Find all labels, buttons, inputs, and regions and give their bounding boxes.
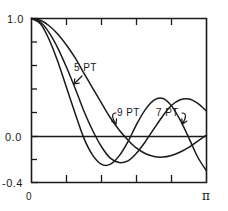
data-curves bbox=[32, 19, 207, 171]
y-axis-max-label: 1.0 bbox=[7, 14, 24, 25]
x-axis-max-label: π bbox=[202, 190, 210, 202]
x-axis-zero-label: 0 bbox=[26, 192, 32, 202]
curve-label-7pt: 7 PT bbox=[156, 108, 179, 118]
chart-figure: 1.0 0.0 -0.4 0 π 5 PT 9 PT 7 PT bbox=[0, 0, 228, 211]
x-axis-ticks-top bbox=[67, 19, 172, 26]
y-axis-ticks bbox=[32, 19, 39, 183]
plot-canvas bbox=[0, 0, 228, 211]
x-axis-ticks-bottom bbox=[67, 175, 172, 183]
plot-frame bbox=[31, 18, 207, 183]
curve-7-pt bbox=[32, 19, 207, 163]
curve-9-pt bbox=[32, 19, 207, 171]
y-axis-zero-label: 0.0 bbox=[5, 132, 22, 143]
y-axis-min-label: -0.4 bbox=[2, 178, 23, 189]
curve-label-5pt: 5 PT bbox=[74, 63, 97, 73]
curve-label-9pt: 9 PT bbox=[117, 108, 140, 118]
